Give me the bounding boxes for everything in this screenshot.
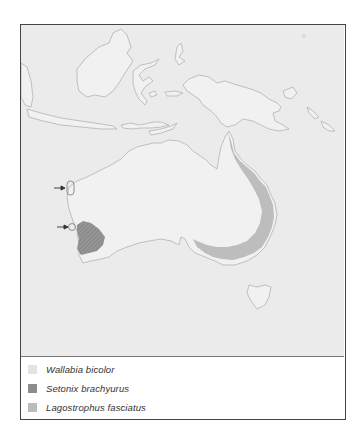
sumatra-island: [21, 63, 33, 107]
arrow-shark-bay-islands: [54, 186, 65, 190]
new-britain-island: [283, 87, 297, 99]
legend-item-lagostrophus-fasciatus: Lagostrophus fasciatus: [28, 401, 146, 413]
buru-island: [149, 91, 157, 97]
solomon-islands: [307, 107, 319, 119]
java-island: [27, 109, 117, 129]
new-guinea-island: [183, 75, 289, 131]
small-island-dot: [303, 35, 305, 37]
rottnest-island-outline: [69, 224, 76, 231]
legend-swatch-wallabia-bicolor: [28, 365, 37, 374]
legend-item-wallabia-bicolor: Wallabia bicolor: [28, 363, 115, 375]
legend-label: Lagostrophus fasciatus: [46, 402, 146, 413]
seram-island: [165, 91, 183, 96]
sulawesi-island: [133, 59, 159, 105]
tasmania-island: [247, 285, 271, 309]
map-svg: [21, 25, 344, 356]
halmahera-island: [175, 43, 185, 65]
legend-label: Setonix brachyurus: [46, 383, 129, 394]
distribution-map: [21, 25, 344, 357]
map-figure-frame: Wallabia bicolor Setonix brachyurus Lago…: [20, 24, 346, 420]
legend-swatch-setonix-brachyurus: [28, 384, 37, 393]
borneo-island: [77, 29, 133, 97]
legend-item-setonix-brachyurus: Setonix brachyurus: [28, 382, 129, 394]
legend-label: Wallabia bicolor: [46, 364, 115, 375]
solomon-islands-2: [321, 121, 335, 131]
map-legend: Wallabia bicolor Setonix brachyurus Lago…: [21, 357, 344, 419]
legend-swatch-lagostrophus-fasciatus: [28, 403, 37, 412]
arrow-rottnest-island: [57, 225, 68, 229]
lesser-sunda-islands: [121, 122, 169, 129]
